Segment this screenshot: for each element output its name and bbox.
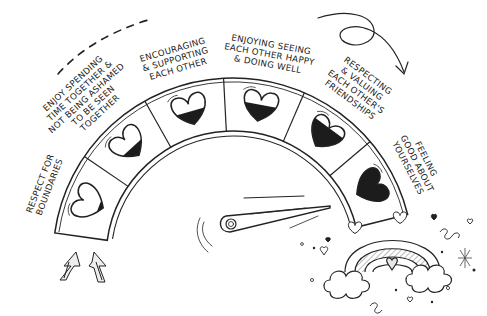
sparkle-icon [458, 248, 472, 268]
segment-label-3: ENCOURAGING& SUPPORTINGEACH OTHER [138, 35, 212, 83]
friendship-meter-illustration: RESPECT FORBOUNDARIESENJOY SPENDINGTIME … [0, 0, 487, 316]
double-up-arrow-icon [60, 252, 106, 282]
needle-pointer-icon [197, 196, 330, 252]
segment-label-4: ENJOYING SEEINGEACH OTHER HAPPY& DOING W… [222, 31, 318, 77]
segment-label-1: RESPECT FORBOUNDARIES [24, 152, 65, 217]
gauge-drawing: RESPECT FORBOUNDARIESENJOY SPENDINGTIME … [0, 0, 487, 316]
